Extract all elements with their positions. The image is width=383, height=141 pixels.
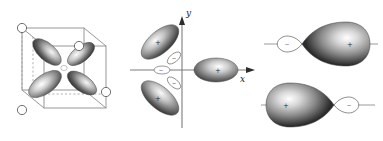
lower-left-lobe-sign: +	[155, 95, 161, 103]
ligand-circle-top-front-right	[74, 41, 83, 50]
upper-left-lobe-sign: +	[155, 39, 161, 47]
y-axis-arrowhead	[179, 16, 185, 25]
ligand-circle-top-back-left	[17, 23, 26, 32]
x-axis-arrowhead	[246, 67, 255, 73]
panel-hybrid-pair: + − + −	[256, 0, 383, 141]
upper-major-lobe-sign: +	[347, 41, 353, 49]
lower-hybrid-orbital: + −	[261, 83, 375, 127]
upper-hybrid-orbital: + −	[264, 22, 378, 66]
panel-cube-orbital	[0, 0, 128, 141]
ligand-circle-bottom-front-left	[17, 105, 26, 114]
lower-major-lobe-sign: +	[283, 102, 289, 110]
right-lobe-sign: +	[215, 67, 221, 75]
small-left-lobe-sign: −	[159, 67, 164, 73]
lower-minor-lobe-sign: −	[347, 102, 352, 108]
x-axis-label: x	[240, 74, 245, 84]
upper-minor-lobe	[277, 36, 302, 52]
figure-canvas: y x + + + − − −	[0, 0, 383, 141]
orbital-core	[61, 65, 67, 70]
panel-axes-orbital: y x + + + − − −	[128, 0, 256, 141]
small-lower-lobe-sign: −	[172, 80, 177, 86]
ligand-circle-bottom-back-right	[101, 87, 110, 96]
lower-major-lobe	[266, 83, 334, 127]
upper-major-lobe	[302, 22, 370, 66]
upper-left-lobe	[28, 34, 65, 70]
y-axis-label: y	[185, 8, 192, 18]
small-upper-lobe-sign: −	[172, 55, 177, 61]
lower-right-lobe	[63, 66, 100, 99]
upper-minor-lobe-sign: −	[285, 41, 290, 47]
orbital-four-lobe	[24, 34, 101, 103]
